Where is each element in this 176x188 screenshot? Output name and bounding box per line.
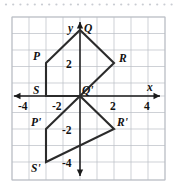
point-label-S: S	[33, 84, 39, 96]
x-tick-minus-2: -2	[52, 100, 62, 112]
y-axis-label: y	[66, 22, 74, 35]
point-label-P-prime: P'	[31, 116, 41, 128]
coordinate-plane-figure: -4 -2 2 4 2 -2 -4 y x P Q R S Q' P' R' S…	[0, 0, 176, 188]
point-label-S-prime: S'	[31, 162, 41, 174]
x-tick-2: 2	[110, 100, 116, 112]
point-label-R-prime: R'	[116, 116, 128, 128]
y-tick-minus-2: -2	[62, 124, 72, 136]
plot-canvas: -4 -2 2 4 2 -2 -4 y x P Q R S Q' P' R' S…	[0, 0, 176, 188]
point-label-Q: Q	[84, 22, 92, 34]
grid-lines	[12, 17, 165, 180]
y-tick-2: 2	[66, 58, 72, 70]
x-axis-label: x	[146, 81, 153, 93]
point-label-R: R	[118, 52, 127, 64]
x-tick-minus-4: -4	[18, 100, 28, 112]
x-tick-4: 4	[144, 100, 150, 112]
y-tick-minus-4: -4	[62, 157, 72, 169]
point-label-Q-prime: Q'	[82, 84, 94, 96]
point-label-P: P	[33, 50, 41, 62]
